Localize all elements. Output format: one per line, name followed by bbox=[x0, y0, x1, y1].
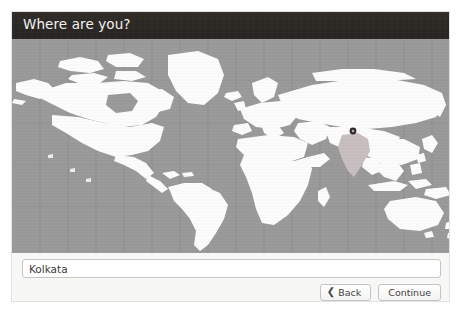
button-row: ❮ Back Continue bbox=[320, 284, 441, 301]
world-map[interactable] bbox=[12, 39, 450, 253]
continue-button[interactable]: Continue bbox=[378, 284, 441, 301]
location-input[interactable] bbox=[22, 259, 441, 278]
installer-window: Where are you? bbox=[11, 11, 450, 302]
back-button-label: Back bbox=[338, 287, 361, 298]
location-marker-icon bbox=[350, 128, 357, 135]
bottom-panel: ❮ Back Continue bbox=[12, 253, 450, 302]
landmass-philippines bbox=[410, 163, 422, 175]
chevron-left-icon: ❮ bbox=[327, 287, 335, 297]
continue-button-label: Continue bbox=[388, 287, 431, 298]
world-map-svg[interactable] bbox=[12, 39, 450, 253]
title-bar: Where are you? bbox=[12, 12, 450, 39]
back-button[interactable]: ❮ Back bbox=[320, 284, 371, 301]
page-title: Where are you? bbox=[23, 16, 131, 32]
